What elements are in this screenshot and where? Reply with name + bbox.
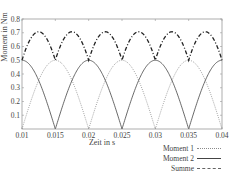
x-tick-label: 0.015: [47, 131, 64, 140]
y-tick-label: 0.1: [11, 111, 21, 120]
legend: Moment 1 Moment 2 Summe: [150, 143, 230, 173]
series-layer: [22, 32, 222, 129]
y-tick-label: 0.4: [11, 70, 21, 79]
y-axis-label: Moment in Nm: [0, 12, 9, 62]
legend-label: Summe: [150, 164, 197, 173]
x-tick-label: 0.03: [149, 131, 162, 140]
legend-swatch-dashdot: [197, 168, 221, 169]
x-tick-label: 0.04: [215, 131, 228, 140]
legend-item-summe: Summe: [150, 163, 230, 173]
y-tick-label: 0.6: [11, 42, 21, 51]
x-tick-label: 0.025: [114, 131, 131, 140]
x-axis-ticks: 0.010.0150.020.0250.030.0350.04: [15, 19, 228, 140]
y-tick-label: 0.7: [11, 28, 21, 37]
legend-item-moment-2: Moment 2: [150, 153, 230, 163]
legend-item-moment-1: Moment 1: [150, 143, 230, 153]
series-summe: [22, 32, 222, 60]
y-tick-label: 0.5: [11, 56, 21, 65]
plot-frame: [22, 19, 222, 129]
y-tick-label: 0.8: [11, 15, 21, 24]
x-axis-label: Zeit in s: [89, 138, 115, 147]
x-tick-label: 0.035: [180, 131, 197, 140]
y-tick-label: 0.2: [11, 97, 21, 106]
legend-label: Moment 2: [150, 154, 197, 163]
legend-label: Moment 1: [150, 144, 197, 153]
y-tick-label: 0.3: [11, 83, 21, 92]
legend-swatch-solid: [197, 158, 221, 159]
y-axis-ticks: 0.10.20.30.40.50.60.70.8: [11, 15, 222, 120]
series-moment-2: [22, 60, 222, 129]
plot-border: [22, 19, 222, 129]
x-tick-label: 0.01: [15, 131, 28, 140]
legend-swatch-dotted: [197, 148, 221, 149]
